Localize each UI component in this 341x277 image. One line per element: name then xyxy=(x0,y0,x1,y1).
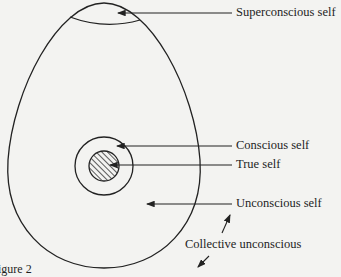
figure-caption: igure 2 xyxy=(0,262,32,277)
label-conscious-self: Conscious self xyxy=(236,138,309,153)
label-collective-unconscious: Collective unconscious xyxy=(185,237,301,252)
egg-outline xyxy=(8,3,201,268)
label-unconscious-self: Unconscious self xyxy=(236,196,322,211)
superconscious-boundary xyxy=(70,17,140,24)
label-superconscious-self: Superconscious self xyxy=(236,5,336,20)
label-true-self: True self xyxy=(236,157,280,172)
arrow-collective-down xyxy=(198,256,209,267)
true-self-circle xyxy=(89,151,119,181)
arrow-collective-up xyxy=(222,215,230,233)
